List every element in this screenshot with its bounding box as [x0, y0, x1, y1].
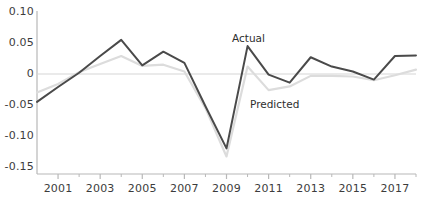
x-axis-tick-label: 2009 [207, 182, 247, 195]
x-axis-tick-label: 2003 [80, 182, 120, 195]
y-axis-tick-label: -0.05 [0, 98, 34, 111]
x-axis-tick-label: 2017 [375, 182, 415, 195]
x-axis-tick-label: 2015 [333, 182, 373, 195]
series-annotation-actual: Actual [232, 32, 265, 44]
x-axis-tick-label: 2011 [249, 182, 289, 195]
x-axis-tick-label: 2001 [38, 182, 78, 195]
x-axis-ticks [58, 174, 416, 179]
y-axis-tick-label: 0.05 [0, 36, 34, 49]
axes-group [37, 11, 416, 174]
series-line-predicted [37, 56, 416, 156]
x-axis-tick-label: 2013 [291, 182, 331, 195]
y-axis-tick-label: -0.10 [0, 129, 34, 142]
series-line-actual [37, 40, 416, 148]
x-axis-tick-label: 2005 [122, 182, 162, 195]
chart-series-lines [37, 40, 416, 157]
series-annotation-predicted: Predicted [250, 98, 299, 110]
y-axis-tick-label: 0.10 [0, 5, 34, 18]
chart-plot-area [0, 0, 421, 205]
y-axis-tick-label: -0.15 [0, 160, 34, 173]
x-axis-tick-label: 2007 [164, 182, 204, 195]
y-axis-tick-label: 0 [0, 67, 34, 80]
line-chart: 0.100.050-0.05-0.10-0.15 200120032005200… [0, 0, 421, 205]
